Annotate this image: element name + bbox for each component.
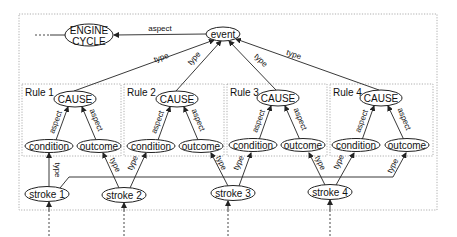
rule-4-condition-node: condition <box>332 139 380 152</box>
stroke-label: stroke 3 <box>215 188 251 199</box>
outcome-label: outcome <box>388 140 427 151</box>
rule-4-cause-node: CAUSE <box>360 90 402 106</box>
engine-cycle-node: ENGINE CYCLE <box>65 24 113 47</box>
condition-label: condition <box>131 141 171 152</box>
rule-1-outcome-node: outcome <box>77 140 121 153</box>
edge-label-aspect: aspect <box>292 106 309 132</box>
engine-cycle-line2: CYCLE <box>72 36 106 47</box>
edge-label-type: type <box>252 52 269 69</box>
rule-3-condition-node: condition <box>229 139 277 152</box>
event-node: event <box>206 27 240 41</box>
condition-label: condition <box>29 141 69 152</box>
stroke-label: stroke 1 <box>29 189 65 200</box>
edge-label-type: type <box>53 162 62 178</box>
rule-4-outcome-node: outcome <box>385 139 429 152</box>
event-label: event <box>211 29 236 40</box>
stroke-2-node: stroke 2 <box>102 188 146 203</box>
rule-1-label: Rule 1 <box>25 87 54 98</box>
edge-label-aspect: aspect <box>148 24 172 33</box>
stroke-label: stroke 2 <box>106 190 142 201</box>
engine-cycle-line1: ENGINE <box>70 25 109 36</box>
edge-label-type: type <box>152 51 170 65</box>
condition-label: condition <box>336 140 376 151</box>
edge-cause2-event <box>176 41 221 91</box>
stroke-4-node: stroke 4 <box>308 185 352 200</box>
cause-label: CAUSE <box>364 93 399 104</box>
edge-label-type: type <box>385 157 400 175</box>
edge-cause4-event <box>236 39 379 90</box>
rule-2-label: Rule 2 <box>127 87 156 98</box>
outcome-label: outcome <box>80 141 119 152</box>
rule-1-cause-node: CAUSE <box>54 91 96 107</box>
rule-3-outcome-node: outcome <box>281 139 325 152</box>
edge-event-engine-aspect <box>114 34 206 35</box>
edge-label-aspect: aspect <box>88 107 105 133</box>
condition-label: condition <box>233 140 273 151</box>
outcome-label: outcome <box>182 141 221 152</box>
edge-label-type: type <box>313 154 328 172</box>
rule-3-label: Rule 3 <box>230 87 259 98</box>
rule-2-condition-node: condition <box>127 140 175 153</box>
engine-cycle-diagram: Rule 1 Rule 2 Rule 3 Rule 4 aspect type … <box>0 0 457 237</box>
rule-2-outcome-node: outcome <box>179 140 223 153</box>
edge-label-aspect: aspect <box>190 107 207 133</box>
stroke-label: stroke 4 <box>312 187 348 198</box>
outcome-label: outcome <box>284 140 323 151</box>
stroke-3-node: stroke 3 <box>211 186 255 201</box>
edge-label-type: type <box>108 156 123 174</box>
rule-4-label: Rule 4 <box>333 87 362 98</box>
rule-3-cause-node: CAUSE <box>257 90 299 106</box>
cause-label: CAUSE <box>261 93 296 104</box>
cause-label: CAUSE <box>160 94 195 105</box>
cause-label: CAUSE <box>58 94 93 105</box>
edge-label-aspect: aspect <box>353 108 370 134</box>
rule-1-condition-node: condition <box>25 140 73 153</box>
stroke-1-node: stroke 1 <box>25 187 69 202</box>
edge-label-aspect: aspect <box>47 109 64 135</box>
edge-label-aspect: aspect <box>250 108 267 134</box>
edge-cause3-event <box>229 41 276 90</box>
rule-2-cause-node: CAUSE <box>156 91 198 107</box>
edge-label-type: type <box>331 153 346 171</box>
edge-label-aspect: aspect <box>149 109 166 135</box>
